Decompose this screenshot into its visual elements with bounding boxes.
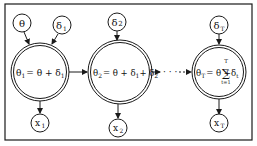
node-deltaT-sub: T [220, 25, 224, 32]
node-x1-label: x [35, 118, 40, 128]
node-deltaT: δ T [210, 16, 228, 34]
node-xT-label: x [214, 118, 219, 128]
node-x1-sub: 1 [42, 122, 46, 129]
node-delta2-label: δ [111, 17, 117, 28]
node-x2-label: x [113, 123, 118, 133]
sum-upper-limit: T [224, 58, 228, 64]
node-delta2-sub: 2 [118, 20, 122, 28]
edge-theta-theta1 [24, 32, 29, 44]
node-delta1-label: δ [56, 20, 62, 31]
node-x2-sub: 2 [120, 127, 124, 134]
state-theta2: θ2= θ + δ1+ δ2 [88, 40, 158, 104]
node-theta: θ [13, 14, 31, 32]
node-deltaT-label: δ [213, 20, 219, 31]
state-theta1: θ1= θ + δ1 [11, 43, 69, 101]
sum-lower-limit: t=1 [221, 79, 230, 85]
node-x1: x 1 [31, 114, 49, 132]
node-x2: x 2 [109, 119, 127, 137]
node-theta-label: θ [19, 18, 25, 29]
ellipsis: · · · [163, 67, 177, 77]
state-thetaT: θT= θ + T ∑ t=1 δt [192, 45, 246, 99]
edge-delta1-theta1 [52, 34, 58, 44]
node-xT: x T [210, 114, 228, 132]
state-theta2-formula: θ2= θ + δ1+ δ2 [93, 68, 158, 79]
diagram-canvas: θ δ 1 δ 2 δ T θ1= θ + δ1 θ2= θ + δ1+ δ2 [0, 0, 257, 146]
node-delta1: δ 1 [53, 16, 71, 34]
node-xT-sub: T [220, 122, 224, 129]
node-delta1-sub: 1 [63, 25, 67, 32]
node-delta2: δ 2 [108, 13, 126, 31]
